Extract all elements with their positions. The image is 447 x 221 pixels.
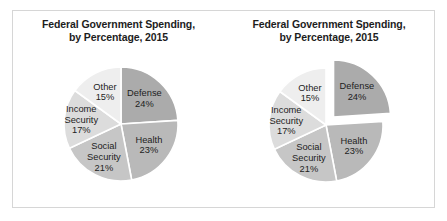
chart-title-line-1: Federal Government Spending,	[13, 18, 224, 31]
slice-value: 17%	[72, 125, 91, 135]
slice-value: 17%	[276, 126, 295, 136]
slice-value: 15%	[96, 92, 115, 102]
slice-category: Health	[340, 136, 367, 146]
pie-chart-exploded: Defense24%Health23%SocialSecurity21%Inco…	[224, 45, 435, 205]
slice-category: Social	[91, 141, 116, 151]
slice-category: Security	[64, 115, 98, 125]
slice-category: Security	[269, 116, 303, 126]
chart-title-standard: Federal Government Spending, by Percenta…	[13, 18, 224, 44]
chart-cell-standard: Federal Government Spending, by Percenta…	[13, 11, 224, 207]
figure-root: Federal Government Spending, by Percenta…	[0, 0, 447, 221]
slice-value: 21%	[95, 163, 114, 173]
slice-category: Other	[298, 83, 321, 93]
chart-title-exploded: Federal Government Spending, by Percenta…	[224, 18, 435, 44]
pie-chart-standard: Defense24%Health23%SocialSecurity21%Inco…	[13, 45, 224, 205]
slice-value: 23%	[140, 145, 159, 155]
slice-value: 23%	[344, 146, 363, 156]
chart-title-line-1: Federal Government Spending,	[224, 18, 435, 31]
slice-category: Defense	[127, 88, 162, 98]
slice-value: 15%	[300, 93, 319, 103]
slice-category: Income	[271, 105, 302, 115]
pie-wrap-standard: Defense24%Health23%SocialSecurity21%Inco…	[13, 45, 224, 205]
chart-panel: Federal Government Spending, by Percenta…	[12, 10, 435, 208]
pie-slice-label-other: Other15%	[93, 82, 116, 103]
slice-category: Social	[296, 142, 321, 152]
slice-category: Security	[292, 153, 326, 163]
pie-slice-label-other: Other15%	[298, 83, 321, 104]
pie-wrap-exploded: Defense24%Health23%SocialSecurity21%Inco…	[224, 45, 435, 205]
chart-title-line-2: by Percentage, 2015	[13, 31, 224, 44]
slice-value: 21%	[299, 164, 318, 174]
slice-category: Defense	[339, 81, 374, 91]
slice-category: Income	[66, 104, 97, 114]
chart-cell-exploded: Federal Government Spending, by Percenta…	[224, 11, 435, 207]
slice-value: 24%	[135, 99, 154, 109]
slice-category: Health	[135, 135, 162, 145]
slice-category: Security	[87, 152, 121, 162]
chart-title-line-2: by Percentage, 2015	[224, 31, 435, 44]
slice-value: 24%	[347, 92, 366, 102]
slice-category: Other	[93, 82, 116, 92]
